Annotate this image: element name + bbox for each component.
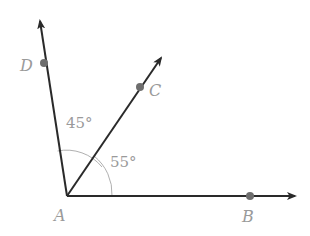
point-d	[40, 59, 48, 67]
angle-diagram: D C B A 45° 55°	[0, 0, 310, 236]
label-c: C	[149, 81, 161, 100]
angle-label-cab: 55°	[110, 153, 137, 171]
ray-ad	[40, 21, 67, 196]
label-d: D	[19, 56, 33, 75]
label-b: B	[241, 207, 254, 226]
angle-label-dac: 45°	[66, 114, 93, 132]
label-a: A	[52, 206, 66, 225]
point-c	[136, 83, 144, 91]
point-b	[246, 192, 254, 200]
